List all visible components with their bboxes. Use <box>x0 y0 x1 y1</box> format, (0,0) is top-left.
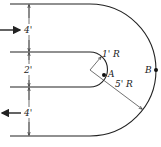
outer-radius-label: 5' R <box>115 79 133 89</box>
point-a-label: A <box>107 69 115 79</box>
upper-width-label: 4' <box>23 25 32 35</box>
inner-radius-label: 1' R <box>102 49 120 59</box>
lower-width-label: 4' <box>23 108 32 118</box>
point-a-marker <box>102 73 106 77</box>
point-b-marker <box>154 68 158 72</box>
point-b-label: B <box>144 65 152 75</box>
outer-radius-line <box>90 70 142 109</box>
inner-radius-line <box>90 57 101 70</box>
u-bend-diagram: 4' 2' 4' 1' R 5' R A B <box>0 0 161 147</box>
gap-width-label: 2' <box>23 65 32 75</box>
